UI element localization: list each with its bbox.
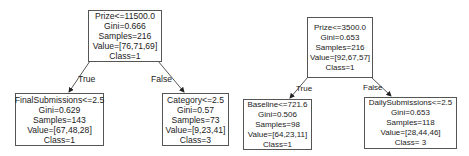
class: Class=1	[325, 63, 354, 73]
samples: Samples=73	[171, 115, 219, 125]
split-condition: Prize<=11500.0	[95, 11, 155, 21]
gini: Gini=0.653	[391, 108, 430, 118]
value: Value=[76,71,69]	[93, 41, 158, 51]
samples: Samples=98	[255, 120, 300, 130]
tree2-root-node: Prize<=3500.0 Gini=0.653 Samples=216 Val…	[307, 17, 373, 78]
edge-label-true: True	[78, 74, 95, 84]
value: Value=[67,48,28]	[27, 125, 92, 135]
tree1-right-node: Category<=2.5 Gini=0.57 Samples=73 Value…	[162, 93, 229, 146]
split-condition: FinalSubmissions<=2.5	[15, 95, 104, 105]
class: Class=1	[263, 140, 292, 150]
split-condition: Category<=2.5	[167, 95, 224, 105]
samples: Samples=216	[315, 43, 364, 53]
value: Value=[92,67,57]	[310, 53, 370, 63]
class: Class=1	[44, 135, 75, 145]
class: Class= 3	[395, 138, 426, 148]
split-condition: DailySubmissions<=2.5	[369, 98, 453, 108]
tree2-left-node: Baseline<=721.6 Gini=0.506 Samples=98 Va…	[243, 99, 312, 150]
gini: Gini=0.653	[321, 33, 360, 43]
edge-label-true: True	[296, 84, 312, 93]
tree1-root-node: Prize<=11500.0 Gini=0.666 Samples=216 Va…	[88, 10, 162, 62]
edge-label-false: False	[363, 83, 383, 92]
value: Value=[28,44,46]	[380, 128, 440, 138]
gini: Gini=0.506	[258, 110, 297, 120]
class: Class=3	[180, 135, 211, 145]
value: Value=[64,23,11]	[248, 130, 308, 140]
gini: Gini=0.629	[39, 105, 81, 115]
split-condition: Baseline<=721.6	[247, 100, 307, 110]
tree2-right-node: DailySubmissions<=2.5 Gini=0.653 Samples…	[364, 97, 457, 149]
gini: Gini=0.666	[104, 21, 146, 31]
value: Value=[9,23,41]	[166, 125, 226, 135]
samples: Samples=143	[33, 115, 86, 125]
split-condition: Prize<=3500.0	[314, 23, 366, 33]
tree1-left-node: FinalSubmissions<=2.5 Gini=0.629 Samples…	[15, 93, 104, 146]
gini: Gini=0.57	[177, 105, 214, 115]
edge-label-false: False	[151, 74, 172, 84]
samples: Samples=118	[386, 118, 435, 128]
samples: Samples=216	[99, 31, 152, 41]
class: Class=1	[109, 51, 140, 61]
